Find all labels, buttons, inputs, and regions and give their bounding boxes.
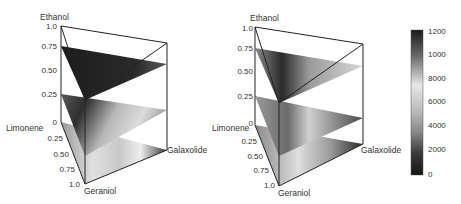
- left-dtick: 0.75: [59, 165, 75, 174]
- right-dtick: 1.0: [264, 181, 276, 190]
- figure-canvas: Ethanol 1.0 0.75 0.50 0.25 0 Limonene 0.…: [0, 0, 461, 204]
- colorbar-tick: 1200: [428, 27, 446, 36]
- right-vtick: 0.75: [237, 44, 253, 53]
- right-dtick: 0.50: [247, 152, 263, 161]
- right-prism-panel: Ethanol 1.0 0.75 0.50 0.25 0 Limonene 0.…: [212, 13, 401, 198]
- colorbar-gradient: [411, 30, 423, 175]
- left-vtick: 0.25: [41, 90, 57, 99]
- left-limonene-label: Limonene: [6, 123, 44, 133]
- colorbar-tick: 6000: [428, 97, 446, 106]
- colorbar-tick: 8000: [428, 74, 446, 83]
- right-limonene-label: Limonene: [212, 123, 250, 133]
- right-slice-ethanol-075: [255, 48, 363, 103]
- left-prism-panel: Ethanol 1.0 0.75 0.50 0.25 0 Limonene 0.…: [6, 12, 207, 196]
- left-vtick: 0.75: [41, 42, 57, 51]
- right-vtick: 0.50: [237, 67, 253, 76]
- colorbar-tick: 0: [428, 170, 433, 179]
- left-vtick: 1.0: [46, 22, 58, 31]
- right-dtick: 0.75: [253, 166, 269, 175]
- colorbar-tick: 2000: [428, 145, 446, 154]
- left-dtick: 1.0: [69, 180, 81, 189]
- left-vtick: 0.50: [41, 66, 57, 75]
- right-vtick: 0.25: [237, 92, 253, 101]
- right-vtick: 1.0: [242, 24, 254, 33]
- colorbar-tick: 1000: [428, 50, 446, 59]
- left-dtick: 0.50: [53, 150, 69, 159]
- colorbar-tick: 4000: [428, 121, 446, 130]
- colorbar: 1200 1000 8000 6000 4000 2000 0: [411, 27, 446, 179]
- left-vtick: 0: [53, 118, 58, 127]
- left-geraniol-label: Geraniol: [84, 186, 116, 196]
- left-dtick: 0.25: [47, 134, 63, 143]
- left-galaxolide-label: Galaxolide: [167, 145, 207, 155]
- right-dtick: 0.25: [241, 137, 257, 146]
- right-geraniol-label: Geraniol: [278, 188, 310, 198]
- left-ethanol-label: Ethanol: [40, 12, 69, 22]
- right-galaxolide-label: Galaxolide: [361, 145, 401, 155]
- right-ethanol-label: Ethanol: [250, 13, 279, 23]
